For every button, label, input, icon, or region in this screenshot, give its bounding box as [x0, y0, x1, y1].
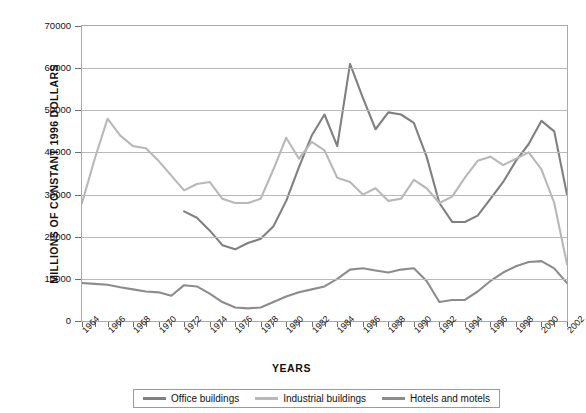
gridline	[82, 152, 567, 153]
legend-item[interactable]: Hotels and motels	[382, 393, 490, 404]
gridline	[82, 237, 567, 238]
legend-item-label: Industrial buildings	[283, 393, 366, 404]
legend-item[interactable]: Industrial buildings	[255, 393, 366, 404]
y-axis-tick-label: 50000	[11, 104, 71, 115]
gridline	[82, 279, 567, 280]
y-axis-tick-label: 70000	[11, 20, 71, 31]
series-line	[184, 64, 567, 249]
x-axis-title: YEARS	[0, 362, 583, 374]
y-axis-tick-label: 20000	[11, 231, 71, 242]
plot-area	[81, 25, 568, 322]
gridline	[82, 68, 567, 69]
gridline	[82, 110, 567, 111]
chart-legend: Office buildingsIndustrial buildingsHote…	[133, 389, 500, 408]
series-line	[82, 119, 567, 264]
y-axis-tick-label: 10000	[11, 273, 71, 284]
y-axis-tick-label: 40000	[11, 146, 71, 157]
y-axis-tick-label: 0	[11, 315, 71, 326]
gridline	[82, 195, 567, 196]
y-axis-tick-label: 30000	[11, 189, 71, 200]
legend-item-label: Office buildings	[171, 393, 239, 404]
legend-item[interactable]: Office buildings	[143, 393, 239, 404]
series-line	[82, 261, 567, 308]
y-axis-tick-label: 60000	[11, 62, 71, 73]
legend-swatch-icon	[143, 397, 166, 399]
chart-svg	[82, 26, 567, 321]
legend-swatch-icon	[255, 397, 278, 399]
legend-item-label: Hotels and motels	[410, 393, 490, 404]
legend-swatch-icon	[382, 397, 405, 399]
